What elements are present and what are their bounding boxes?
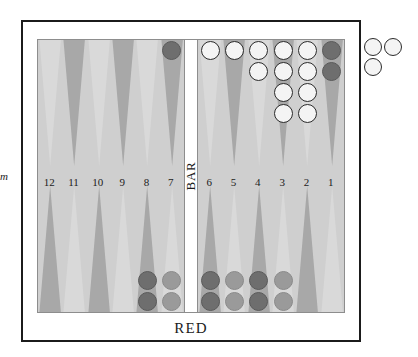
point-number-7: 7 — [159, 172, 183, 192]
point-number-5: 5 — [221, 172, 245, 192]
point-6[interactable] — [198, 40, 222, 166]
backgammon-diagram: m WHITE RED BAR 121110987 654321 — [0, 0, 418, 357]
point-number-9: 9 — [110, 172, 134, 192]
point-numbers-right: 654321 — [197, 172, 343, 192]
checker-white[interactable] — [298, 83, 317, 102]
point-7[interactable] — [160, 186, 184, 312]
point-12[interactable] — [38, 40, 62, 166]
checker-white[interactable] — [274, 83, 293, 102]
point-3[interactable] — [271, 40, 295, 166]
borne-off-checker[interactable] — [364, 58, 382, 76]
point-7[interactable] — [160, 40, 184, 166]
point-1[interactable] — [320, 40, 344, 166]
checker-white[interactable] — [274, 104, 293, 123]
point-1[interactable] — [320, 186, 344, 312]
checker-white[interactable] — [298, 104, 317, 123]
point-numbers-left: 121110987 — [37, 172, 183, 192]
quadrant-bottom-right — [198, 186, 344, 312]
point-numbers: 121110987 654321 — [37, 172, 345, 192]
point-10[interactable] — [87, 40, 111, 166]
point-9[interactable] — [111, 186, 135, 312]
point-2[interactable] — [295, 40, 319, 166]
quadrant-top-left — [38, 40, 184, 166]
quadrant-top-right — [198, 40, 344, 166]
checker-white[interactable] — [274, 62, 293, 81]
checker-red-light[interactable] — [225, 292, 244, 311]
point-4[interactable] — [247, 186, 271, 312]
point-11[interactable] — [62, 40, 86, 166]
checker-red[interactable] — [201, 271, 220, 290]
checker-red-light[interactable] — [274, 292, 293, 311]
checker-red[interactable] — [138, 271, 157, 290]
point-3[interactable] — [271, 186, 295, 312]
quadrant-bottom-left — [38, 186, 184, 312]
checker-white[interactable] — [298, 41, 317, 60]
point-12[interactable] — [38, 186, 62, 312]
point-number-3: 3 — [270, 172, 294, 192]
point-number-11: 11 — [61, 172, 85, 192]
point-8[interactable] — [135, 186, 159, 312]
checker-white[interactable] — [225, 41, 244, 60]
point-6[interactable] — [198, 186, 222, 312]
point-9[interactable] — [111, 40, 135, 166]
point-number-12: 12 — [37, 172, 61, 192]
checker-white[interactable] — [274, 41, 293, 60]
point-5[interactable] — [222, 186, 246, 312]
checker-red[interactable] — [138, 292, 157, 311]
point-5[interactable] — [222, 40, 246, 166]
checker-red-light[interactable] — [225, 271, 244, 290]
point-11[interactable] — [62, 186, 86, 312]
point-number-4: 4 — [246, 172, 270, 192]
point-number-2: 2 — [294, 172, 318, 192]
point-number-8: 8 — [134, 172, 158, 192]
borne-off-tray[interactable] — [364, 38, 412, 80]
point-number-10: 10 — [86, 172, 110, 192]
borne-off-checker[interactable] — [364, 38, 382, 56]
point-number-6: 6 — [197, 172, 221, 192]
point-8[interactable] — [135, 40, 159, 166]
red-player-label: RED — [21, 320, 361, 337]
point-2[interactable] — [295, 186, 319, 312]
checker-red-light[interactable] — [274, 271, 293, 290]
point-4[interactable] — [247, 40, 271, 166]
checker-white[interactable] — [201, 41, 220, 60]
checker-red[interactable] — [201, 292, 220, 311]
borne-off-checker[interactable] — [384, 38, 402, 56]
point-10[interactable] — [87, 186, 111, 312]
margin-glyph: m — [0, 170, 8, 182]
checker-white[interactable] — [298, 62, 317, 81]
point-number-1: 1 — [319, 172, 343, 192]
